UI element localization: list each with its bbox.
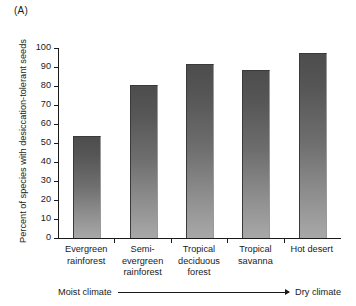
climate-arrow-icon (118, 292, 289, 293)
y-axis-tick-label: 100 (36, 42, 51, 52)
y-axis-tick-label: 70 (41, 99, 51, 109)
x-axis-tick-mark (284, 238, 285, 243)
climate-right-label: Dry climate (295, 287, 341, 297)
y-axis-tick-label: 30 (41, 175, 51, 185)
x-axis-tick-mark (171, 238, 172, 243)
bar (299, 53, 327, 238)
y-axis-tick-label: 80 (41, 80, 51, 90)
bar (242, 70, 270, 238)
bar (186, 64, 214, 238)
x-axis-category-label: Tropicaldeciduousforest (171, 244, 227, 279)
climate-left-label: Moist climate (58, 287, 112, 297)
x-axis-category-label: Evergreenrainforest (58, 244, 114, 267)
climate-gradient-annotation: Moist climate Dry climate (58, 284, 341, 300)
x-axis-tick-mark (227, 238, 228, 243)
y-axis-tick-label: 40 (41, 156, 51, 166)
bar (130, 85, 158, 238)
plot-area (58, 48, 340, 238)
y-axis-tick-label: 60 (41, 118, 51, 128)
x-axis-tick-mark (114, 238, 115, 243)
y-axis-tick-label: 90 (41, 61, 51, 71)
x-axis-category-label: Semi-evergreenrainforest (114, 244, 170, 279)
y-axis-tick-label: 0 (46, 232, 51, 242)
panel-label: (A) (14, 5, 28, 16)
x-axis-category-label: Tropicalsavanna (227, 244, 283, 267)
y-axis-tick-label: 10 (41, 213, 51, 223)
x-axis-category-label: Hot desert (284, 244, 340, 256)
y-axis-tick-label: 50 (41, 137, 51, 147)
bar (73, 136, 101, 238)
y-axis-tick-label: 20 (41, 194, 51, 204)
x-axis-line (58, 238, 341, 239)
y-axis-title: Percent of species with desiccation-tole… (14, 16, 32, 266)
